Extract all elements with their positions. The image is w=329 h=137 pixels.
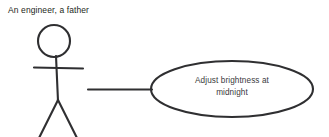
use-case-label: Adjust brightness at midnight: [163, 75, 301, 98]
diagram-drawing-layer: [0, 0, 329, 137]
actor-arms-line: [34, 68, 83, 69]
actor-head-icon: [38, 25, 70, 57]
use-case-label-line-2: midnight: [163, 87, 301, 99]
use-case-diagram: An engineer, a father Adjust brightness …: [0, 0, 329, 137]
actor-label: An engineer, a father: [8, 5, 89, 16]
actor-right-leg-line: [58, 100, 77, 137]
actor-stick-figure: [34, 25, 83, 137]
actor-left-leg-line: [39, 100, 58, 137]
use-case-label-line-1: Adjust brightness at: [163, 75, 301, 87]
actor-body-line: [56, 56, 58, 101]
